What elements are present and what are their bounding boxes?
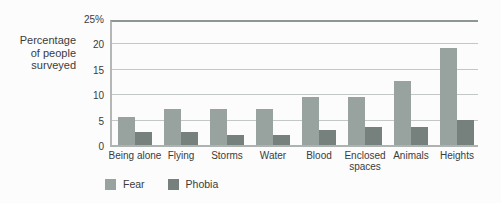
plot-area: Being aloneFlyingStormsWaterBloodEnclose… [110,20,478,147]
fear-bar-storms [210,109,227,145]
fear-bar-enclosed-spaces [348,97,365,145]
bar-group-heights: Heights [434,22,480,145]
bar-group-animals: Animals [388,22,434,145]
y-tick-label-25: 25% [70,14,104,26]
legend-entry-fear: Fear [105,178,145,190]
phobia-bar-being-alone [135,132,152,145]
bar-group-being-alone: Being alone [112,22,158,145]
fear-bar-flying [164,109,181,145]
y-tick-label-15: 15 [70,65,104,77]
y-tick-label-5: 5 [70,116,104,128]
bar-group-blood: Blood [296,22,342,145]
y-axis-label: Percentage of people surveyed [8,34,76,72]
phobia-bar-heights [457,120,474,145]
legend: FearPhobia [105,178,218,190]
fear-bar-heights [440,48,457,145]
legend-label-phobia: Phobia [186,178,219,190]
bar-group-water: Water [250,22,296,145]
legend-entry-phobia: Phobia [168,178,219,190]
bar-group-flying: Flying [158,22,204,145]
phobia-bar-storms [227,135,244,145]
fear-phobia-bar-chart: Percentage of people surveyed 25%2015105… [0,0,501,203]
phobia-bar-water [273,135,290,145]
fear-bar-being-alone [118,117,135,145]
fear-bar-blood [302,97,319,145]
fear-bar-water [256,109,273,145]
phobia-bar-animals [411,127,428,145]
fear-bar-animals [394,81,411,145]
y-tick-label-0: 0 [70,141,104,153]
bar-group-storms: Storms [204,22,250,145]
category-label-heights: Heights [429,150,485,161]
legend-swatch-fear [105,179,116,190]
bar-group-enclosed-spaces: Enclosed spaces [342,22,388,145]
legend-label-fear: Fear [123,178,145,190]
phobia-bar-blood [319,130,336,145]
y-tick-label-20: 20 [70,39,104,51]
legend-swatch-phobia [168,179,179,190]
y-tick-label-10: 10 [70,90,104,102]
phobia-bar-flying [181,132,198,145]
phobia-bar-enclosed-spaces [365,127,382,145]
